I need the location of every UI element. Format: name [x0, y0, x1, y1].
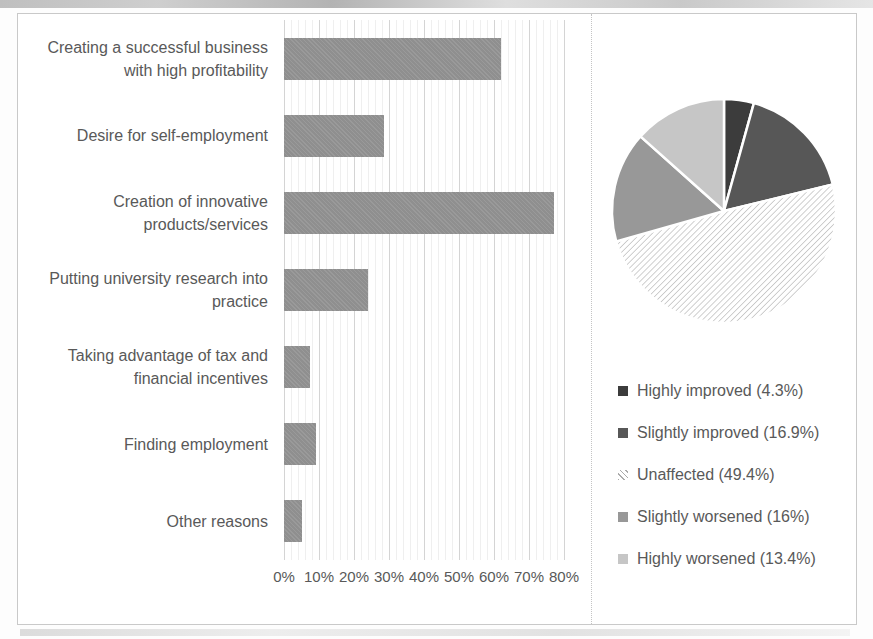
figure-frame: Creating a successful business with high… [17, 13, 857, 625]
x-tick-label: 50% [444, 568, 474, 585]
pie-chart [592, 14, 856, 354]
bar [284, 269, 368, 311]
scan-artifact-top [0, 0, 873, 8]
bar-category-label: Creating a successful business with high… [18, 20, 276, 97]
legend-item: Unaffected (49.4%) [618, 454, 853, 496]
pie-legend: Highly improved (4.3%)Slightly improved … [618, 370, 853, 580]
bar [284, 500, 302, 542]
legend-item: Highly worsened (13.4%) [618, 538, 853, 580]
legend-label: Slightly improved (16.9%) [637, 424, 819, 442]
legend-item: Slightly worsened (16%) [618, 496, 853, 538]
bar-plot-area [284, 20, 570, 560]
bar-category-label: Putting university research into practic… [18, 251, 276, 328]
bar-category-label: Creation of innovative products/services [18, 174, 276, 251]
legend-label: Highly improved (4.3%) [637, 382, 803, 400]
legend-swatch-icon [618, 470, 628, 480]
legend-label: Highly worsened (13.4%) [637, 550, 816, 568]
bar-category-label: Taking advantage of tax and financial in… [18, 329, 276, 406]
legend-swatch-icon [618, 428, 628, 438]
bar-x-axis: 0%10%20%30%40%50%60%70%80% [284, 568, 584, 592]
x-tick-label: 10% [304, 568, 334, 585]
bar [284, 346, 310, 388]
bar-category-label: Other reasons [18, 483, 276, 560]
bar [284, 423, 316, 465]
legend-swatch-icon [618, 554, 628, 564]
bar-category-label: Desire for self-employment [18, 97, 276, 174]
x-tick-label: 0% [273, 568, 295, 585]
bar-chart-panel: Creating a successful business with high… [18, 14, 591, 624]
scan-artifact-bottom [20, 629, 850, 636]
legend-swatch-icon [618, 512, 628, 522]
legend-item: Slightly improved (16.9%) [618, 412, 853, 454]
legend-swatch-icon [618, 386, 628, 396]
x-tick-label: 60% [479, 568, 509, 585]
pie-chart-panel: Highly improved (4.3%)Slightly improved … [592, 14, 856, 624]
x-tick-label: 80% [549, 568, 579, 585]
x-tick-label: 30% [374, 568, 404, 585]
bar [284, 38, 501, 80]
legend-label: Slightly worsened (16%) [637, 508, 810, 526]
bar-category-label: Finding employment [18, 406, 276, 483]
legend-item: Highly improved (4.3%) [618, 370, 853, 412]
bar [284, 115, 384, 157]
bar-category-axis: Creating a successful business with high… [18, 20, 276, 560]
x-tick-label: 70% [514, 568, 544, 585]
legend-label: Unaffected (49.4%) [637, 466, 775, 484]
x-tick-label: 20% [339, 568, 369, 585]
x-tick-label: 40% [409, 568, 439, 585]
bar [284, 192, 554, 234]
